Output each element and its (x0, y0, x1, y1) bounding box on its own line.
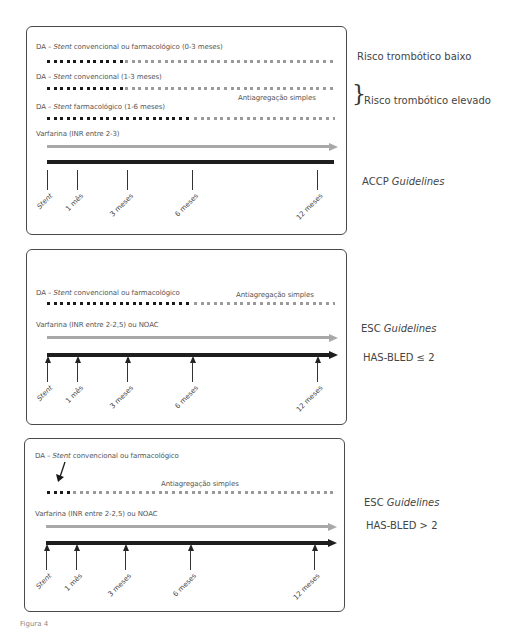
timeline-arrowhead-icon (329, 351, 338, 359)
tick-1-month (76, 550, 77, 570)
hasbled-label: HAS-BLED ≤ 2 (363, 352, 435, 363)
anticoag-arrow (47, 336, 330, 339)
anticoag-arrowhead-icon (329, 143, 338, 151)
pointer-arrow-icon (54, 461, 70, 483)
tick-stent (46, 550, 47, 570)
tick-3-months (125, 550, 126, 570)
dual-antiplatelet-bar (47, 302, 192, 305)
tick-3-months (127, 170, 128, 190)
risk-low-label: Risco trombótico baixo (357, 51, 471, 62)
single-antiplatelet-label: Antiagregação simples (236, 291, 314, 299)
tick-12-months (317, 170, 318, 190)
single-antiplatelet-bar (194, 117, 335, 120)
anticoag-label: Varfarina (INR entre 2-3) (36, 130, 119, 138)
anticoag-label: Varfarina (INR entre 2-2,5) ou NOAC (36, 321, 159, 329)
tick-3-months (127, 362, 128, 382)
hasbled-label: HAS-BLED > 2 (366, 520, 438, 531)
risk-high-label: Risco trombótico elevado (364, 95, 491, 106)
anticoag-arrowhead-icon (329, 334, 338, 342)
row-label-dual-1-6: DA – Stent farmacológico (1-6 meses) (36, 103, 165, 111)
dual-antiplatelet-bar (47, 60, 123, 63)
single-antiplatelet-bar (73, 491, 335, 494)
single-antiplatelet-bar (194, 302, 335, 305)
row-label-dual: DA – Stent convencional ou farmacológico (36, 289, 180, 297)
tick-stent (47, 362, 48, 382)
guideline-label-accp: ACCP Guidelines (362, 176, 444, 187)
tick-6-months (190, 550, 191, 570)
tick-12-months (314, 550, 315, 570)
anticoag-arrow (47, 145, 330, 148)
single-antiplatelet-bar (125, 87, 335, 90)
single-antiplatelet-label: Antiagregação simples (238, 94, 316, 102)
anticoag-arrow (46, 525, 329, 528)
row-label-dual-1-3: DA – Stent convencional (1-3 meses) (36, 73, 162, 81)
tick-stent (47, 170, 48, 190)
guideline-label-esc: ESC Guidelines (364, 497, 439, 508)
timeline-arrowhead-icon (328, 539, 337, 547)
dual-antiplatelet-bar (47, 117, 192, 120)
timeline-bar (47, 353, 330, 357)
tick-6-months (192, 170, 193, 190)
dual-antiplatelet-bar (47, 491, 72, 494)
anticoag-label: Varfarina (INR entre 2-2,5) ou NOAC (35, 510, 158, 518)
timeline-bar (47, 160, 334, 164)
figure-caption: Figura 4 (20, 620, 48, 628)
dual-antiplatelet-bar (47, 87, 123, 90)
tick-12-months (317, 362, 318, 382)
single-antiplatelet-bar (125, 60, 335, 63)
anticoag-arrowhead-icon (328, 523, 337, 531)
tick-1-month (77, 170, 78, 190)
tick-6-months (192, 362, 193, 382)
row-label-dual: DA – Stent convencional ou farmacológico (35, 452, 179, 460)
tick-1-month (77, 362, 78, 382)
guideline-label-esc: ESC Guidelines (361, 323, 436, 334)
single-antiplatelet-label: Antiagregação simples (161, 480, 239, 488)
row-label-dual-0-3: DA – Stent convencional ou farmacológico… (36, 43, 223, 51)
